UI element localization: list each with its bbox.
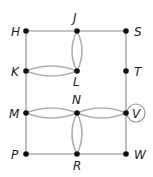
edge-m-n [26, 108, 77, 113]
edge-j-l [72, 31, 77, 71]
node-r [74, 151, 80, 157]
node-h [23, 28, 29, 34]
edge-k-l [26, 71, 77, 76]
node-label-m: M [9, 107, 20, 121]
edge-n-r [77, 113, 82, 154]
node-label-h: H [11, 25, 20, 39]
node-label-w: W [134, 148, 147, 162]
node-v [123, 110, 129, 116]
edge-j-l [77, 31, 82, 71]
node-label-l: L [73, 75, 80, 89]
node-k [23, 68, 29, 74]
node-label-k: K [11, 65, 20, 79]
node-m [23, 110, 29, 116]
node-label-n: N [72, 93, 81, 107]
graph-diagram: HJSKLTMNVPRW [0, 0, 153, 177]
node-label-v: V [132, 107, 141, 121]
node-t [123, 68, 129, 74]
node-label-t: T [134, 65, 143, 79]
node-l [74, 68, 80, 74]
node-label-r: R [73, 159, 81, 173]
node-w [123, 151, 129, 157]
node-label-s: S [134, 25, 142, 39]
node-label-p: P [11, 148, 19, 162]
edge-k-l [26, 66, 77, 71]
node-j [74, 28, 80, 34]
node-p [23, 151, 29, 157]
node-s [123, 28, 129, 34]
node-label-j: J [71, 11, 77, 25]
edge-n-r [72, 113, 77, 154]
edge-m-n [26, 113, 77, 118]
edge-n-v [77, 108, 126, 113]
edge-n-v [77, 113, 126, 118]
node-n [74, 110, 80, 116]
